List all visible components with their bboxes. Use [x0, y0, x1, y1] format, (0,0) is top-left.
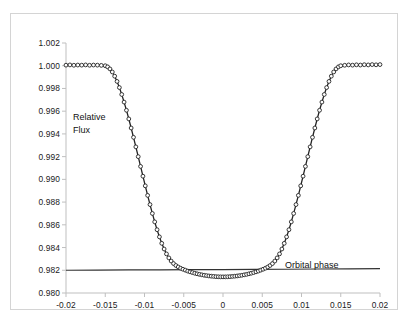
y-axis-tick-label: 0.998 — [14, 83, 60, 93]
y-axis-tick-label: 0.980 — [14, 288, 60, 298]
axis-lines — [66, 43, 380, 293]
y-axis-tick-label: 0.982 — [14, 265, 60, 275]
transit-curve-markers — [64, 63, 382, 279]
y-axis-tick-label: 0.996 — [14, 106, 60, 116]
y-axis-tick-label: 1.000 — [14, 61, 60, 71]
y-axis-tick-label: 0.990 — [14, 174, 60, 184]
transit-curve-line — [66, 65, 380, 277]
y-axis-tick-label: 1.002 — [14, 38, 60, 48]
x-axis-tick-label: 0.02 — [355, 300, 405, 310]
y-axis-tick-label: 0.992 — [14, 152, 60, 162]
chart-plot-frame: 0.9800.9820.9840.9860.9880.9900.9920.994… — [10, 13, 398, 310]
transit-light-curve-chart: 0.9800.9820.9840.9860.9880.9900.9920.994… — [0, 0, 411, 323]
chart-canvas — [11, 14, 397, 309]
orbital-phase-annotation: Orbital phase — [285, 259, 339, 272]
relative-flux-line2: Flux — [73, 124, 106, 137]
y-axis-tick-label: 0.988 — [14, 197, 60, 207]
y-axis-tick-label: 0.994 — [14, 129, 60, 139]
relative-flux-line1: Relative — [73, 111, 106, 124]
relative-flux-annotation: Relative Flux — [73, 111, 106, 136]
y-axis-tick-marks — [62, 43, 66, 293]
y-axis-tick-label: 0.984 — [14, 243, 60, 253]
x-axis-tick-marks — [66, 293, 380, 297]
y-axis-tick-label: 0.986 — [14, 220, 60, 230]
